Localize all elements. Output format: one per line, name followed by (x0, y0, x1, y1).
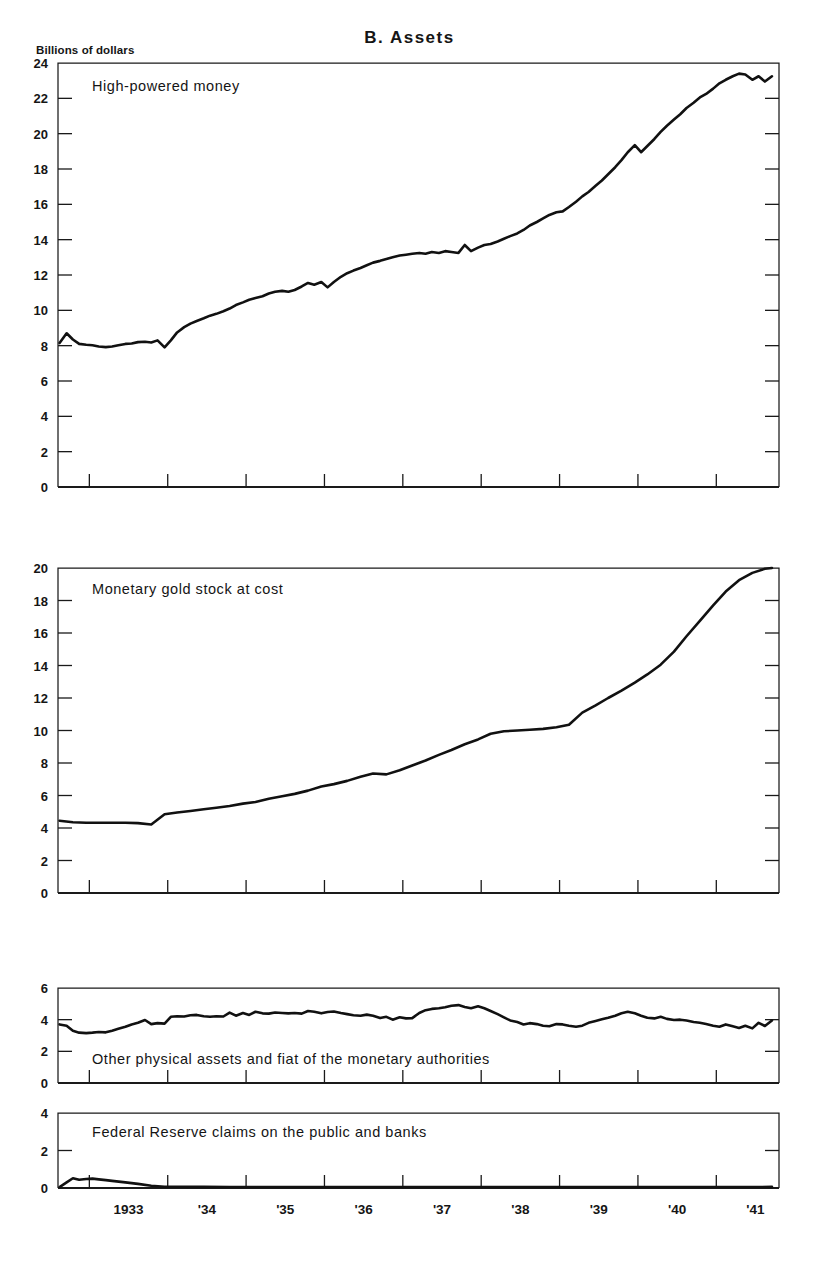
y-tick-label: 0 (41, 1181, 48, 1196)
y-tick-label: 4 (41, 409, 49, 424)
y-tick-label: 2 (41, 854, 48, 869)
y-tick-label: 6 (41, 981, 48, 996)
y-tick-label: 10 (34, 724, 48, 739)
y-tick-label: 0 (41, 886, 48, 901)
panel-plot-federal-reserve-claims: 024Federal Reserve claims on the public … (0, 1105, 819, 1200)
panel-monetary-gold-stock: 02468101214161820Monetary gold stock at … (0, 560, 819, 905)
x-tick-label: '38 (511, 1202, 530, 1217)
x-tick-label: '36 (355, 1202, 374, 1217)
series-line-monetary-gold-stock (60, 568, 772, 824)
y-tick-label: 16 (34, 626, 48, 641)
plot-frame (58, 988, 779, 1083)
y-tick-label: 6 (41, 374, 48, 389)
panel-high-powered-money: 024681012141618202224High-powered money (0, 55, 819, 515)
y-tick-label: 18 (34, 594, 48, 609)
y-tick-label: 24 (34, 56, 49, 71)
x-tick-label: '34 (198, 1202, 217, 1217)
panel-federal-reserve-claims: 024Federal Reserve claims on the public … (0, 1105, 819, 1200)
panel-plot-monetary-gold-stock: 02468101214161820Monetary gold stock at … (0, 560, 819, 905)
series-label-high-powered-money: High-powered money (92, 78, 240, 94)
series-line-high-powered-money (60, 74, 772, 348)
x-tick-label: 1933 (114, 1202, 145, 1217)
y-tick-label: 12 (34, 691, 48, 706)
y-tick-label: 20 (34, 561, 48, 576)
panel-plot-high-powered-money: 024681012141618202224High-powered money (0, 55, 819, 515)
y-tick-label: 2 (41, 1144, 48, 1159)
panel-plot-other-physical-assets-and-fiat: 0246Other physical assets and fiat of th… (0, 980, 819, 1095)
x-tick-label: '35 (276, 1202, 295, 1217)
series-line-other-physical-assets-and-fiat (60, 1005, 772, 1033)
assets-chart-figure: B. Assets Billions of dollars 0246810121… (0, 0, 819, 1274)
y-tick-label: 22 (34, 91, 48, 106)
x-tick-label: '39 (590, 1202, 608, 1217)
y-tick-label: 4 (41, 1013, 49, 1028)
plot-frame (58, 568, 779, 893)
y-tick-label: 4 (41, 821, 49, 836)
y-tick-label: 18 (34, 162, 48, 177)
y-tick-label: 2 (41, 445, 48, 460)
y-tick-label: 4 (41, 1106, 49, 1121)
y-tick-label: 8 (41, 339, 48, 354)
x-axis-labels-svg: 1933'34'35'36'37'38'39'40'41 (0, 1200, 819, 1230)
x-axis-year-labels: 1933'34'35'36'37'38'39'40'41 (0, 1200, 819, 1230)
y-tick-label: 2 (41, 1044, 48, 1059)
series-line-federal-reserve-claims (60, 1178, 772, 1187)
panel-other-physical-assets: 0246Other physical assets and fiat of th… (0, 980, 819, 1095)
x-tick-label: '41 (746, 1202, 765, 1217)
series-label-other-physical-assets-and-fiat: Other physical assets and fiat of the mo… (92, 1051, 490, 1067)
y-tick-label: 14 (34, 233, 49, 248)
series-label-monetary-gold-stock: Monetary gold stock at cost (92, 581, 283, 597)
series-label-federal-reserve-claims: Federal Reserve claims on the public and… (92, 1124, 427, 1140)
y-tick-label: 10 (34, 303, 48, 318)
y-tick-label: 12 (34, 268, 48, 283)
y-tick-label: 0 (41, 1076, 48, 1091)
y-tick-label: 6 (41, 789, 48, 804)
y-tick-label: 14 (34, 659, 49, 674)
x-tick-label: '37 (433, 1202, 451, 1217)
y-tick-label: 20 (34, 127, 48, 142)
y-tick-label: 16 (34, 197, 48, 212)
y-tick-label: 0 (41, 480, 48, 495)
plot-frame (58, 63, 779, 487)
x-tick-label: '40 (668, 1202, 686, 1217)
y-tick-label: 8 (41, 756, 48, 771)
